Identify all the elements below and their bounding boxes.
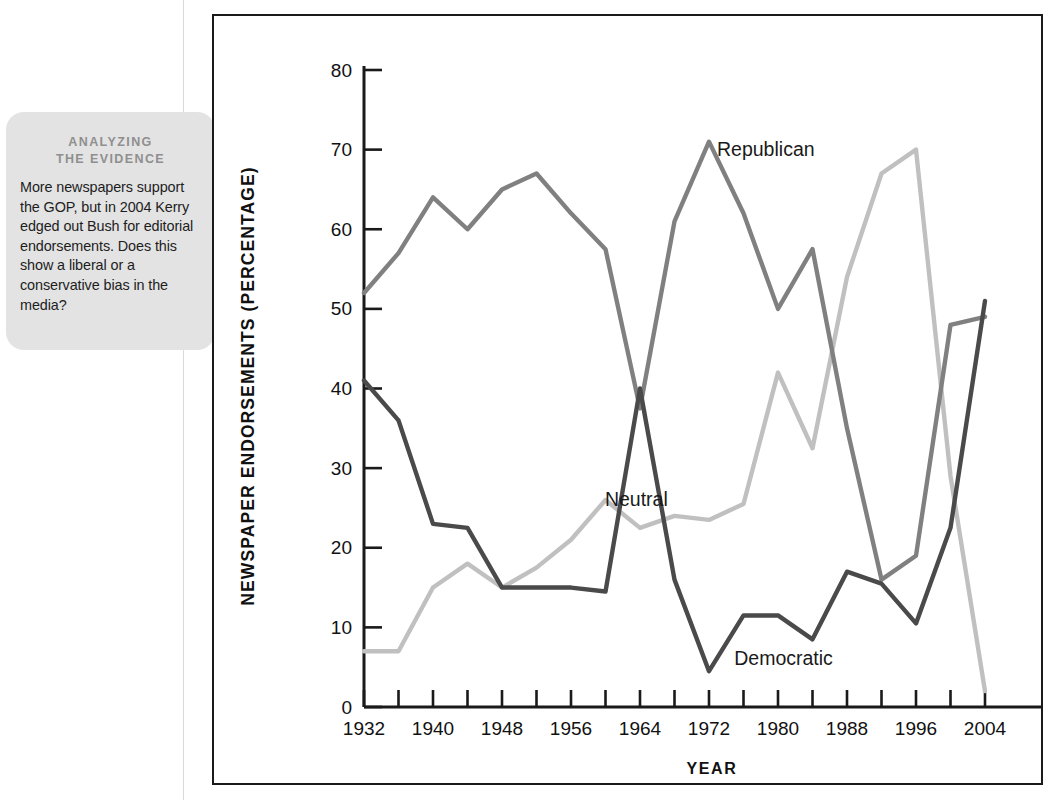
data-series-group xyxy=(364,142,985,691)
y-tick-label: 40 xyxy=(331,378,352,399)
y-axis-title: NEWSPAPER ENDORSEMENTS (PERCENTAGE) xyxy=(238,166,258,605)
y-tick-label: 50 xyxy=(331,298,352,319)
y-tick-label: 80 xyxy=(331,60,352,81)
series-label-republican: Republican xyxy=(717,138,815,160)
x-tick-label: 1940 xyxy=(412,718,454,739)
y-tick-label: 70 xyxy=(331,139,352,160)
x-tick-label: 1988 xyxy=(826,718,868,739)
figure-page: ANALYZING THE EVIDENCE More newspapers s… xyxy=(0,0,1053,800)
series-label-democratic: Democratic xyxy=(734,647,833,669)
y-tick-label: 20 xyxy=(331,537,352,558)
x-axis-tick-labels: 1932194019481956196419721980198819962004 xyxy=(343,718,1007,739)
y-axis-tick-labels: 01020304050607080 xyxy=(331,60,352,718)
callout-heading-line2: THE EVIDENCE xyxy=(20,151,201,168)
series-line-democratic xyxy=(364,301,985,671)
x-tick-label: 2004 xyxy=(964,718,1007,739)
series-label-neutral: Neutral xyxy=(605,488,668,510)
x-tick-label: 1996 xyxy=(895,718,937,739)
x-tick-label: 1948 xyxy=(481,718,523,739)
callout-body-text: More newspapers support the GOP, but in … xyxy=(20,178,201,315)
y-tick-label: 30 xyxy=(331,458,352,479)
analyzing-the-evidence-callout: ANALYZING THE EVIDENCE More newspapers s… xyxy=(6,112,215,350)
x-tick-label: 1980 xyxy=(757,718,799,739)
x-tick-label: 1964 xyxy=(619,718,662,739)
y-tick-label: 10 xyxy=(331,617,352,638)
callout-heading-line1: ANALYZING xyxy=(20,134,201,151)
x-tick-label: 1972 xyxy=(688,718,730,739)
line-chart: 01020304050607080 1932194019481956196419… xyxy=(212,14,1043,785)
y-tick-label: 0 xyxy=(341,697,352,718)
x-axis-ticks xyxy=(364,690,985,707)
x-tick-label: 1932 xyxy=(343,718,385,739)
x-tick-label: 1956 xyxy=(550,718,592,739)
x-axis-title: YEAR xyxy=(687,760,738,777)
callout-heading: ANALYZING THE EVIDENCE xyxy=(20,134,201,168)
y-tick-label: 60 xyxy=(331,219,352,240)
